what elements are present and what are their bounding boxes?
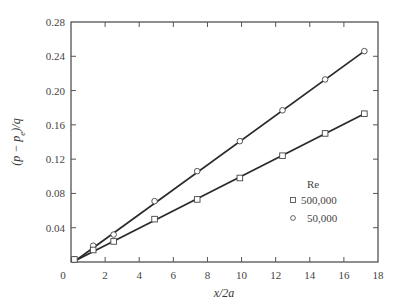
x-tick-label: 8 bbox=[205, 269, 211, 281]
circle-marker bbox=[111, 232, 117, 238]
x-tick-label: 4 bbox=[136, 269, 142, 281]
square-marker bbox=[152, 216, 158, 222]
fit-line-square bbox=[76, 114, 364, 261]
legend-circle-icon bbox=[291, 216, 296, 221]
x-tick-label: 6 bbox=[171, 269, 177, 281]
fit-line-circle bbox=[76, 51, 364, 260]
y-tick-label: 0.08 bbox=[46, 187, 66, 199]
x-tick-label: 18 bbox=[373, 269, 385, 281]
square-marker bbox=[111, 239, 117, 245]
square-marker bbox=[72, 257, 78, 263]
y-tick-label: 0.28 bbox=[46, 16, 66, 28]
y-tick-label: 0.24 bbox=[46, 50, 66, 62]
x-axis-title: x/2a bbox=[213, 286, 235, 300]
square-marker bbox=[280, 153, 286, 159]
square-marker bbox=[322, 131, 328, 137]
legend-square-icon bbox=[291, 198, 296, 203]
x-tick-label: 16 bbox=[338, 269, 350, 281]
x-tick-label: 12 bbox=[270, 269, 281, 281]
plot-frame bbox=[71, 22, 378, 262]
x-tick-label: 10 bbox=[236, 269, 248, 281]
x-tick-label: 14 bbox=[304, 269, 316, 281]
circle-marker bbox=[194, 168, 200, 174]
circle-marker bbox=[280, 107, 286, 113]
square-marker bbox=[90, 247, 96, 253]
square-marker bbox=[237, 175, 243, 181]
y-axis-title: (p − pe)/q bbox=[9, 118, 27, 165]
plot-border bbox=[71, 22, 378, 262]
legend-label: 50,000 bbox=[307, 212, 338, 224]
x-tick-labels: 024681012141618 bbox=[60, 269, 384, 281]
x-tick-label: 0 bbox=[60, 269, 66, 281]
fit-lines bbox=[76, 51, 364, 260]
square-marker bbox=[362, 111, 368, 117]
circle-marker bbox=[362, 48, 368, 54]
circle-marker bbox=[152, 198, 158, 204]
circle-marker bbox=[237, 138, 243, 144]
square-marker bbox=[194, 197, 200, 203]
y-tick-label: 0.12 bbox=[46, 153, 65, 165]
y-tick-label: 0.16 bbox=[46, 119, 66, 131]
chart: 024681012141618 0.040.080.120.160.200.24… bbox=[0, 0, 397, 303]
legend-title: Re bbox=[307, 178, 319, 190]
x-tick-label: 2 bbox=[102, 269, 108, 281]
y-tick-label: 0.20 bbox=[46, 85, 66, 97]
circle-marker bbox=[322, 77, 328, 83]
y-tick-label: 0.04 bbox=[46, 222, 66, 234]
y-tick-labels: 0.040.080.120.160.200.240.28 bbox=[46, 16, 66, 234]
axis-ticks bbox=[71, 22, 378, 262]
legend: Re500,00050,000 bbox=[291, 178, 338, 224]
legend-label: 500,000 bbox=[301, 194, 337, 206]
